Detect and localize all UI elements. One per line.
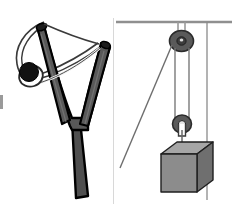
slingshot-figure <box>0 0 113 208</box>
panel-pulley <box>113 0 234 208</box>
fixed-pulley <box>170 31 194 52</box>
pull-rope <box>120 45 172 168</box>
figure-canvas <box>0 0 234 208</box>
panel-slingshot <box>0 0 113 208</box>
block <box>161 142 213 192</box>
block-front-face <box>161 154 197 192</box>
handle <box>72 120 88 198</box>
pulley-figure <box>113 0 234 208</box>
ball <box>20 63 39 82</box>
